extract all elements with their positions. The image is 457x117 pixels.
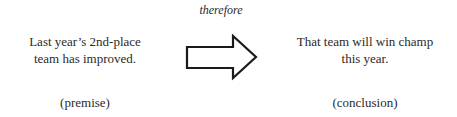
- conclusion-label: (conclusion): [290, 95, 440, 111]
- conclusion-text: That team will win champ this year.: [290, 33, 440, 67]
- premise-label: (premise): [20, 95, 150, 111]
- connector-label: therefore: [186, 3, 256, 18]
- premise-text: Last year’s 2nd-place team has improved.: [20, 33, 150, 67]
- right-arrow-icon: [184, 33, 260, 81]
